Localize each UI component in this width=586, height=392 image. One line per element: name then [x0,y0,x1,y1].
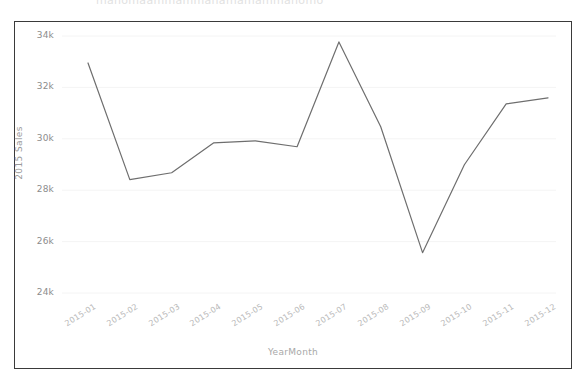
clipped-header-text: manomaammammanamamammanomo [96,0,356,6]
chart-figure-frame [14,21,572,369]
